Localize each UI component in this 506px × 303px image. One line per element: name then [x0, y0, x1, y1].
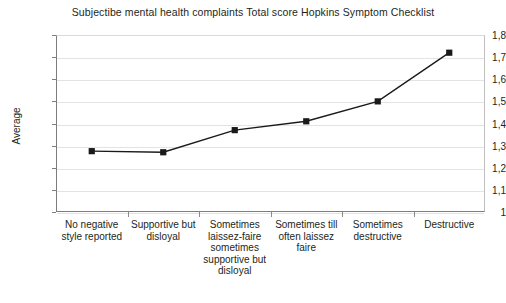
y-tick-mark	[52, 190, 56, 191]
x-category-label: Sometimes till often laissez faire	[273, 219, 341, 254]
x-tick-mark	[342, 212, 343, 217]
y-tick-mark	[52, 124, 56, 125]
y-tick-mark	[52, 57, 56, 58]
y-tick-label: 1,8	[460, 30, 506, 41]
y-tick-label: 1,2	[460, 162, 506, 173]
series-line	[56, 35, 485, 212]
data-point-marker[interactable]	[375, 98, 381, 104]
y-tick-mark	[52, 212, 56, 213]
data-point-marker[interactable]	[232, 127, 238, 133]
data-point-marker[interactable]	[160, 149, 166, 155]
x-tick-mark	[128, 212, 129, 217]
y-tick-label: 1,5	[460, 96, 506, 107]
chart-container: Subjectibe mental health complaints Tota…	[0, 0, 506, 303]
x-tick-mark	[199, 212, 200, 217]
y-tick-label: 1	[460, 207, 506, 218]
chart-title: Subjectibe mental health complaints Tota…	[0, 6, 506, 18]
data-point-marker[interactable]	[446, 50, 452, 56]
y-tick-mark	[52, 146, 56, 147]
series-polyline	[92, 53, 450, 153]
y-tick-label: 1,4	[460, 118, 506, 129]
x-category-label: Destructive	[416, 219, 484, 231]
x-tick-mark	[271, 212, 272, 217]
data-point-marker[interactable]	[303, 118, 309, 124]
y-axis-title: Average	[11, 129, 22, 145]
y-tick-mark	[52, 168, 56, 169]
y-tick-label: 1,6	[460, 74, 506, 85]
x-category-label: Supportive but disloyal	[130, 219, 198, 242]
x-category-label: Sometimes destructive	[344, 219, 412, 242]
y-tick-mark	[52, 35, 56, 36]
x-category-label: Sometimes laissez-faire sometimes suppor…	[201, 219, 269, 277]
x-tick-mark	[414, 212, 415, 217]
y-tick-label: 1,7	[460, 52, 506, 63]
y-tick-label: 1,1	[460, 184, 506, 195]
data-point-marker[interactable]	[89, 148, 95, 154]
y-tick-mark	[52, 79, 56, 80]
y-tick-label: 1,3	[460, 140, 506, 151]
y-tick-mark	[52, 101, 56, 102]
x-category-label: No negative style reported	[58, 219, 126, 242]
